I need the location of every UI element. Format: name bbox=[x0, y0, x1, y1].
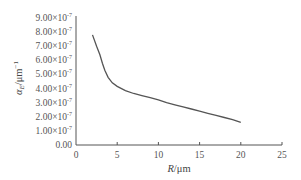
data-series-line bbox=[93, 35, 241, 123]
x-axis-label: R/μm bbox=[166, 163, 190, 174]
x-tick-label: 10 bbox=[154, 150, 164, 160]
y-tick-label: 8.00×10-7 bbox=[36, 26, 72, 37]
y-tick-label: 6.00×10-7 bbox=[36, 54, 72, 65]
y-tick-label: 0.00 bbox=[55, 140, 72, 150]
y-tick-label: 2.00×10-7 bbox=[36, 111, 72, 122]
y-tick-label: 4.00×10-7 bbox=[36, 83, 72, 94]
x-tick-label: 15 bbox=[195, 150, 205, 160]
x-tick-label: 20 bbox=[236, 150, 246, 160]
y-tick-label: 7.00×10-7 bbox=[36, 40, 72, 51]
y-tick-label: 1.00×10-7 bbox=[36, 125, 72, 136]
x-tick-label: 25 bbox=[277, 150, 287, 160]
x-tick-label: 0 bbox=[74, 150, 79, 160]
y-axis-ticks: 0.001.00×10-72.00×10-73.00×10-74.00×10-7… bbox=[36, 12, 73, 150]
y-tick-label: 3.00×10-7 bbox=[36, 97, 72, 108]
line-chart: 0.001.00×10-72.00×10-73.00×10-74.00×10-7… bbox=[0, 0, 301, 180]
y-tick-label: 5.00×10-7 bbox=[36, 68, 72, 79]
x-tick-label: 5 bbox=[115, 150, 120, 160]
y-tick-label: 9.00×10-7 bbox=[36, 12, 72, 23]
y-axis-label: αE/μm−1 bbox=[12, 61, 26, 95]
